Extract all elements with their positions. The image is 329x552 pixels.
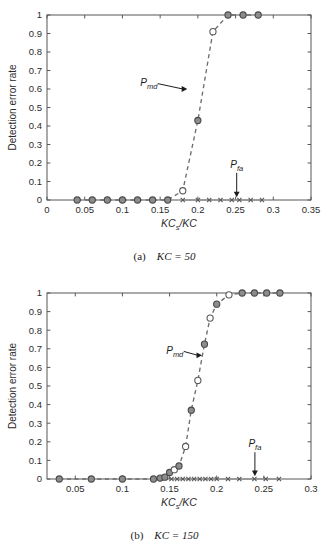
x-tick-label: 0.05 [66,483,85,494]
x-tick-label: 0.35 [302,204,321,215]
data-point-marker [165,197,171,203]
data-point-marker [225,12,231,18]
curve-Pmd [77,15,258,200]
y-tick-label: 1 [37,9,42,20]
x-axis-title: KCs/KC [161,217,197,232]
y-tick-label: 0.5 [29,380,42,391]
pmd-annotation-arrow-line [184,351,198,355]
y-tick-label: 0.5 [29,102,42,113]
caption-b-math: KC = 150 [154,529,198,541]
data-point-marker [119,476,125,482]
data-point-marker [240,12,246,18]
y-tick-label: 0.2 [29,157,42,168]
x-tick-label: 0.1 [116,204,129,215]
pfa-annotation-label: Pfa [230,159,243,173]
plot-b-kc-150: 00.10.20.30.40.50.60.70.80.910.050.10.15… [0,277,329,527]
series-Pfa [181,198,264,202]
y-tick-label: 0 [37,473,42,484]
data-point-marker [88,476,94,482]
pmd-annotation-arrow-line [158,84,183,89]
data-point-marker [251,290,257,296]
pfa-annotation-label: Pfa [248,438,261,452]
data-point-marker [195,377,201,383]
data-point-marker [188,407,194,413]
x-tick-label: 0.15 [160,483,179,494]
y-tick-label: 0.9 [29,28,42,39]
data-point-marker [214,301,220,307]
data-point-marker [201,341,207,347]
y-tick-label: 0 [37,194,42,205]
y-tick-label: 0.3 [29,418,42,429]
data-point-marker [255,12,261,18]
y-tick-label: 0.1 [29,455,42,466]
y-tick-label: 0.3 [29,139,42,150]
data-point-marker [277,290,283,296]
pmd-annotation-label: Pmd [166,345,184,359]
x-tick-label: 0.25 [226,204,245,215]
x-tick-label: 0 [44,204,49,215]
data-point-marker [264,290,270,296]
y-tick-label: 0.1 [29,176,42,187]
chart-b: 00.10.20.30.40.50.60.70.80.910.050.10.15… [0,277,329,527]
data-point-marker [226,292,232,298]
y-tick-label: 0.6 [29,83,42,94]
y-tick-label: 0.9 [29,306,42,317]
data-point-marker [210,29,216,35]
data-point-marker [56,476,62,482]
caption-a-tag: (a) [134,250,146,262]
y-tick-label: 0.7 [29,343,42,354]
y-tick-label: 0.8 [29,46,42,57]
pmd-annotation-arrow-head [197,352,203,358]
data-point-marker [150,476,156,482]
data-point-marker [134,197,140,203]
data-point-marker [89,197,95,203]
pfa-annotation-arrow-head [252,471,258,477]
y-axis-title: Detection error rate [7,64,18,151]
chart-a: 00.10.20.30.40.50.60.70.80.9100.050.10.1… [0,0,329,248]
curve-Pmd [59,293,280,479]
caption-b-tag: (b) [131,529,144,541]
plot-a-kc-50: 00.10.20.30.40.50.60.70.80.9100.050.10.1… [0,0,329,248]
caption-a: (a) KC = 50 [0,248,329,262]
pmd-annotation: Pmd [166,345,202,359]
x-tick-label: 0.25 [255,483,274,494]
data-point-marker [180,188,186,194]
plot-frame [47,15,311,200]
data-point-marker [207,315,213,321]
pmd-annotation: Pmd [140,77,187,92]
pmd-annotation-label: Pmd [140,77,158,91]
detection-error-rate-figure: 00.10.20.30.40.50.60.70.80.9100.050.10.1… [0,0,329,552]
x-tick-label: 0.2 [191,204,204,215]
data-point-marker [195,117,201,123]
caption-a-math: KC = 50 [157,250,196,262]
y-tick-label: 0.2 [29,436,42,447]
caption-b: (b) KC = 150 [0,527,329,541]
data-point-marker [183,443,189,449]
x-tick-label: 0.2 [210,483,223,494]
y-tick-label: 0.4 [29,399,42,410]
subfigure-a: 00.10.20.30.40.50.60.70.80.9100.050.10.1… [0,0,329,277]
pmd-annotation-arrow-head [182,86,188,92]
pfa-annotation: Pfa [230,159,243,198]
data-point-marker [104,197,110,203]
y-tick-label: 0.6 [29,362,42,373]
y-tick-label: 0.7 [29,65,42,76]
y-tick-label: 1 [37,287,42,298]
series-Pmd [74,12,261,203]
x-tick-label: 0.15 [151,204,170,215]
subfigure-b: 00.10.20.30.40.50.60.70.80.910.050.10.15… [0,277,329,552]
y-tick-label: 0.4 [29,120,42,131]
plot-frame [47,293,311,479]
data-point-marker [239,290,245,296]
x-tick-label: 0.1 [116,483,129,494]
pfa-annotation: Pfa [248,438,261,476]
y-axis-title: Detection error rate [7,342,18,429]
data-point-marker [119,197,125,203]
data-point-marker [74,197,80,203]
x-tick-label: 0.05 [75,204,94,215]
x-axis-title: KCs/KC [161,496,197,511]
y-tick-label: 0.8 [29,325,42,336]
series-Pfa [169,477,281,481]
pfa-annotation-arrow-head [234,192,240,198]
x-tick-label: 0.3 [304,483,317,494]
